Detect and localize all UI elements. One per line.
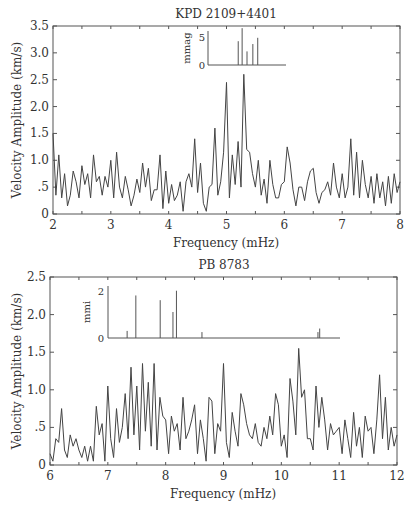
x-axis-label: Frequency (mHz) — [170, 487, 276, 501]
svg-text:2: 2 — [49, 218, 57, 232]
svg-text:0: 0 — [98, 333, 104, 344]
chart-title: PB 8783 — [198, 258, 249, 272]
svg-text:1.0: 1.0 — [30, 153, 49, 167]
svg-text:8: 8 — [162, 469, 170, 483]
svg-text:2.5: 2.5 — [27, 270, 46, 284]
chart-title: KPD 2109+4401 — [175, 7, 277, 21]
svg-text:3: 3 — [107, 218, 115, 232]
svg-text:0: 0 — [199, 60, 205, 71]
svg-text:1.0: 1.0 — [27, 383, 46, 397]
svg-text:2: 2 — [98, 286, 104, 297]
svg-text:7: 7 — [338, 218, 346, 232]
svg-text:.5: .5 — [38, 180, 49, 194]
y-axis-label: Velocity Amplitude (km/s) — [10, 293, 24, 450]
svg-text:.5: .5 — [35, 420, 46, 434]
svg-text:6: 6 — [46, 469, 54, 483]
svg-text:5: 5 — [199, 32, 205, 43]
svg-text:1.5: 1.5 — [30, 126, 49, 140]
svg-text:7: 7 — [104, 469, 112, 483]
velocity-amplitude-trace — [50, 348, 397, 461]
chart-kpd-2109: KPD 2109+4401 Velocity Amplitude (km/s) … — [10, 7, 404, 250]
svg-text:0: 0 — [41, 207, 49, 221]
svg-text:mmag: mmag — [181, 32, 192, 64]
y-ticks: 0.51.01.52.02.5 — [27, 270, 397, 472]
y-axis-label: Velocity Amplitude (km/s) — [10, 42, 24, 199]
svg-text:5: 5 — [223, 218, 231, 232]
svg-text:2.0: 2.0 — [27, 308, 46, 322]
svg-text:3.5: 3.5 — [30, 19, 49, 33]
inset-mmag-plot: 05mmag — [181, 28, 286, 71]
svg-text:3.0: 3.0 — [30, 46, 49, 60]
svg-text:0: 0 — [38, 458, 46, 472]
inset-mmi-plot: 02mmi — [81, 286, 340, 344]
svg-text:2.0: 2.0 — [30, 100, 49, 114]
svg-text:mmi: mmi — [81, 301, 92, 323]
chart-pb-8783: PB 8783 Velocity Amplitude (km/s) Freque… — [10, 258, 405, 501]
svg-text:4: 4 — [165, 218, 173, 232]
svg-text:1.5: 1.5 — [27, 345, 46, 359]
x-axis-label: Frequency (mHz) — [173, 236, 279, 250]
x-ticks: 2345678 — [49, 26, 404, 232]
figure: KPD 2109+4401 Velocity Amplitude (km/s) … — [0, 0, 414, 509]
svg-text:9: 9 — [220, 469, 228, 483]
svg-text:10: 10 — [274, 469, 289, 483]
svg-text:11: 11 — [332, 469, 347, 483]
svg-text:6: 6 — [281, 218, 289, 232]
svg-text:12: 12 — [389, 469, 404, 483]
svg-text:2.5: 2.5 — [30, 73, 49, 87]
velocity-amplitude-trace — [53, 74, 400, 211]
svg-text:8: 8 — [396, 218, 404, 232]
